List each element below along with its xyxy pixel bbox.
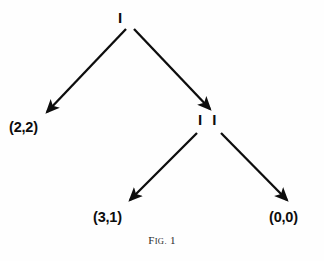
payoff-node-middle: (3,1) [93, 210, 122, 225]
edge-player1-to-player2 [134, 29, 210, 109]
payoff-node-left: (2,2) [9, 120, 38, 135]
decision-node-player-1: I [118, 10, 122, 25]
edge-player1-to-payoff-left [47, 29, 126, 112]
figure-container: I I I (2,2) (3,1) (0,0) FIG. 1 [0, 0, 324, 261]
decision-node-player-2: I I [198, 112, 220, 127]
figure-caption: FIG. 1 [0, 234, 324, 246]
caption-figure-number: 1 [170, 234, 176, 246]
edge-player2-to-payoff-mid [130, 133, 197, 200]
caption-small-caps: IG. [155, 236, 167, 246]
edge-player2-to-payoff-right [221, 133, 287, 200]
payoff-node-right: (0,0) [269, 210, 298, 225]
